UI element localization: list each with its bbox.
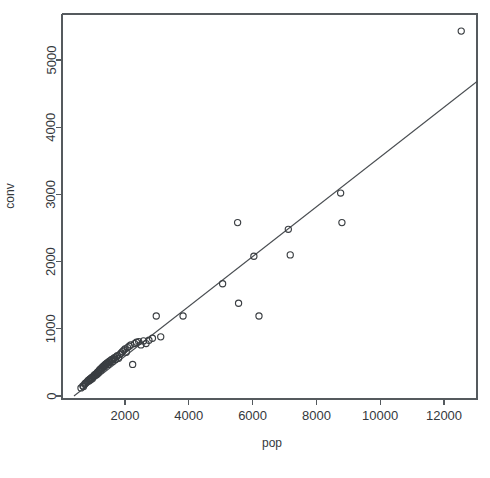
y-tick-label: 1000 bbox=[44, 314, 59, 343]
y-tick-label: 0 bbox=[44, 392, 59, 399]
plot-canvas: 010002000300040005000 200040006000800010… bbox=[0, 0, 490, 478]
scatter-plot-figure: 010002000300040005000 200040006000800010… bbox=[0, 0, 490, 478]
y-tick-label: 3000 bbox=[44, 180, 59, 209]
x-axis-title: pop bbox=[262, 436, 282, 450]
y-axis-title: conv bbox=[3, 183, 17, 208]
x-tick-label: 4000 bbox=[174, 408, 203, 423]
x-tick-label: 2000 bbox=[111, 408, 140, 423]
y-tick-label: 4000 bbox=[44, 113, 59, 142]
figure-background bbox=[0, 0, 490, 478]
x-tick-label: 10000 bbox=[362, 408, 398, 423]
x-tick-label: 6000 bbox=[238, 408, 267, 423]
y-tick-label: 5000 bbox=[44, 46, 59, 75]
x-tick-label: 8000 bbox=[302, 408, 331, 423]
x-tick-label: 12000 bbox=[426, 408, 462, 423]
y-tick-label: 2000 bbox=[44, 247, 59, 276]
